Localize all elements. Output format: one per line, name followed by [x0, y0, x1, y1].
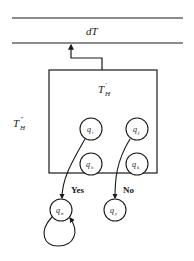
svg-text:′: ′: [105, 81, 107, 89]
head-arrow: [71, 45, 102, 70]
svg-text:q: q: [56, 206, 60, 215]
svg-text:H: H: [19, 124, 26, 132]
tape-label: dT: [86, 25, 99, 37]
state-qn: q n: [50, 199, 72, 221]
svg-text:T: T: [13, 117, 20, 129]
svg-text:q: q: [133, 125, 137, 134]
svg-text:q: q: [132, 160, 136, 169]
svg-text:q: q: [86, 160, 90, 169]
svg-text:T: T: [98, 83, 105, 95]
state-qj: q j: [126, 118, 148, 140]
state-qh: q h: [80, 153, 102, 175]
state-qy: q y: [104, 199, 126, 221]
turing-machine-diagram: dT T ′ H T ″ H q i q j q h q k Yes: [0, 0, 194, 261]
no-label: No: [123, 185, 134, 195]
state-qk: q k: [126, 153, 148, 175]
svg-text:q: q: [87, 125, 91, 134]
svg-text:q: q: [110, 206, 114, 215]
svg-text:H: H: [104, 90, 111, 98]
state-qi: q i: [80, 118, 102, 140]
svg-text:″: ″: [20, 115, 23, 123]
inner-machine-label: T ′ H: [98, 81, 111, 98]
outer-machine-label: T ″ H: [13, 115, 26, 132]
yes-label: Yes: [71, 185, 84, 195]
